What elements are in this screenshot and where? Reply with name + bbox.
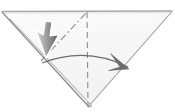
diagram-canvas: Origami fold step diagram Downward point… [0, 0, 175, 112]
top-edge-line [2, 11, 173, 12]
origami-fold-diagram [0, 0, 175, 112]
